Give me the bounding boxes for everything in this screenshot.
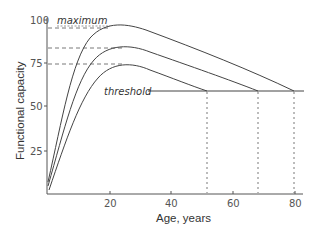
curve-low bbox=[49, 65, 207, 190]
y-tick-25: 25 bbox=[30, 146, 43, 157]
y-tick-100: 100 bbox=[30, 15, 49, 26]
x-tick-60: 60 bbox=[227, 198, 240, 209]
threshold-label: threshold bbox=[104, 86, 152, 97]
y-tick-75: 75 bbox=[30, 58, 43, 69]
chart: 100 75 50 25 20 40 60 80 Age, years Func… bbox=[0, 0, 321, 230]
x-tick-40: 40 bbox=[165, 198, 178, 209]
x-axis-label: Age, years bbox=[156, 212, 211, 224]
curve-middle bbox=[48, 47, 258, 186]
y-axis-label: Functional capacity bbox=[14, 61, 26, 160]
y-tick-50: 50 bbox=[30, 101, 43, 112]
threshold-drops bbox=[207, 92, 294, 193]
maximum-label: maximum bbox=[57, 15, 108, 26]
curve-high bbox=[48, 25, 294, 182]
x-tick-80: 80 bbox=[289, 198, 302, 209]
curves bbox=[48, 25, 294, 190]
x-tick-20: 20 bbox=[104, 198, 117, 209]
